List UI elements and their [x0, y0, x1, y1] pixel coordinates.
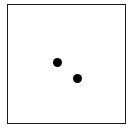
- dot-1: [53, 58, 62, 67]
- dot-2: [73, 74, 82, 83]
- square-frame: [7, 4, 126, 124]
